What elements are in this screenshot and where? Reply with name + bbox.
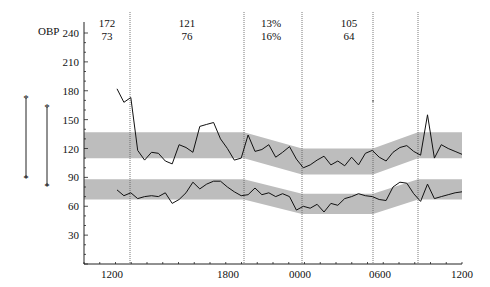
diastolic-normal-band <box>84 179 462 214</box>
y-axis-label: OBP <box>38 25 59 37</box>
y-tick-label: 210 <box>63 56 80 68</box>
y-tick-label: 30 <box>68 229 80 241</box>
header-value-top: 121 <box>179 17 196 29</box>
x-tick-label: 0000 <box>289 268 312 280</box>
blood-pressure-chart: OBP2402101801501209060301200180000000600… <box>0 0 490 287</box>
range-bar-top-marker: * <box>23 92 29 104</box>
x-tick-label: 1200 <box>101 268 124 280</box>
normal-range-bands <box>84 132 462 214</box>
header-value-top: 105 <box>341 17 358 29</box>
header-value-bottom: 16% <box>261 30 281 42</box>
header-value-bottom: 76 <box>182 30 194 42</box>
y-tick-label: 240 <box>63 27 80 39</box>
range-bars: **** <box>23 92 50 192</box>
x-tick-label: 1200 <box>451 268 474 280</box>
y-tick-label: 150 <box>63 114 80 126</box>
header-value-top: 172 <box>99 17 116 29</box>
y-tick-label: 180 <box>63 85 80 97</box>
range-bar-top-marker: * <box>44 101 50 113</box>
y-tick-label: 120 <box>63 143 80 155</box>
range-bar-bottom-marker: * <box>23 172 29 184</box>
x-tick-label: 1800 <box>217 268 240 280</box>
y-tick-label: 60 <box>68 200 80 212</box>
x-tick-label: 0600 <box>369 268 392 280</box>
stray-dot <box>372 100 374 102</box>
header-value-bottom: 64 <box>344 30 356 42</box>
y-tick-label: 90 <box>68 171 80 183</box>
header-value-bottom: 73 <box>102 30 114 42</box>
header-value-top: 13% <box>261 17 281 29</box>
range-bar-bottom-marker: * <box>44 180 50 192</box>
